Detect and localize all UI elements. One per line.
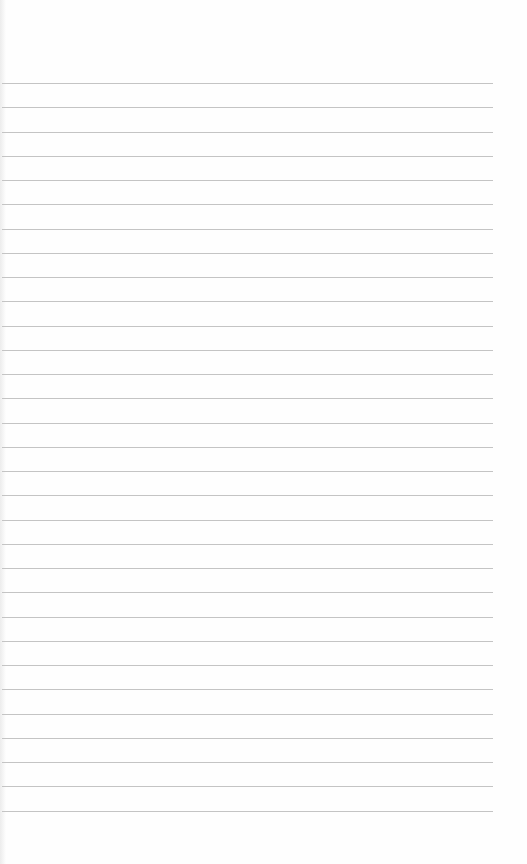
ruled-line — [2, 471, 493, 472]
ruled-line — [2, 592, 493, 593]
ruled-line — [2, 689, 493, 690]
ruled-line — [2, 738, 493, 739]
ruled-line — [2, 665, 493, 666]
ruled-line — [2, 568, 493, 569]
ruled-line — [2, 156, 493, 157]
ruled-line — [2, 107, 493, 108]
ruled-line — [2, 301, 493, 302]
ruled-line — [2, 520, 493, 521]
ruled-line — [2, 786, 493, 787]
ruled-line — [2, 544, 493, 545]
lined-paper-page — [0, 0, 527, 864]
ruled-line — [2, 714, 493, 715]
ruled-line — [2, 204, 493, 205]
ruled-line — [2, 423, 493, 424]
ruled-line — [2, 447, 493, 448]
ruled-line — [2, 641, 493, 642]
ruled-line — [2, 253, 493, 254]
ruled-line — [2, 83, 493, 84]
ruled-line — [2, 326, 493, 327]
ruled-line — [2, 495, 493, 496]
ruled-line — [2, 811, 493, 812]
ruled-line — [2, 762, 493, 763]
ruled-line — [2, 398, 493, 399]
paper-left-edge-shadow — [0, 0, 6, 864]
ruled-line — [2, 229, 493, 230]
ruled-line — [2, 374, 493, 375]
ruled-line — [2, 132, 493, 133]
ruled-line — [2, 180, 493, 181]
ruled-line — [2, 350, 493, 351]
ruled-line — [2, 617, 493, 618]
ruled-line — [2, 277, 493, 278]
